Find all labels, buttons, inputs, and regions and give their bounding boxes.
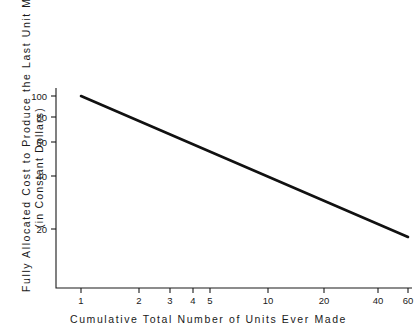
x-tick-label: 3 [167, 295, 172, 306]
x-tick-label: 1 [78, 295, 83, 306]
x-tick-label: 20 [319, 295, 330, 306]
x-tick-label: 4 [190, 295, 195, 306]
y-tick-label: 100 [31, 91, 47, 102]
plot-area: 20406080100 1234510204060 [0, 0, 417, 331]
chart-figure: Fully Allocated Cost to Produce the Last… [0, 0, 417, 331]
y-tick-label: 60 [36, 137, 47, 148]
x-axis-title: Cumulative Total Number of Units Ever Ma… [0, 313, 417, 325]
x-tick-label: 10 [263, 295, 274, 306]
y-axis-ticks: 20406080100 [31, 91, 56, 235]
x-tick-label: 2 [136, 295, 141, 306]
y-tick-label: 80 [36, 112, 47, 123]
x-tick-label: 60 [403, 295, 414, 306]
x-tick-label: 5 [207, 295, 212, 306]
x-axis-ticks: 1234510204060 [78, 288, 413, 306]
data-series-line [81, 96, 408, 237]
axis-frame [56, 88, 412, 288]
y-tick-label: 40 [36, 171, 47, 182]
y-tick-label: 20 [36, 224, 47, 235]
x-tick-label: 40 [373, 295, 384, 306]
